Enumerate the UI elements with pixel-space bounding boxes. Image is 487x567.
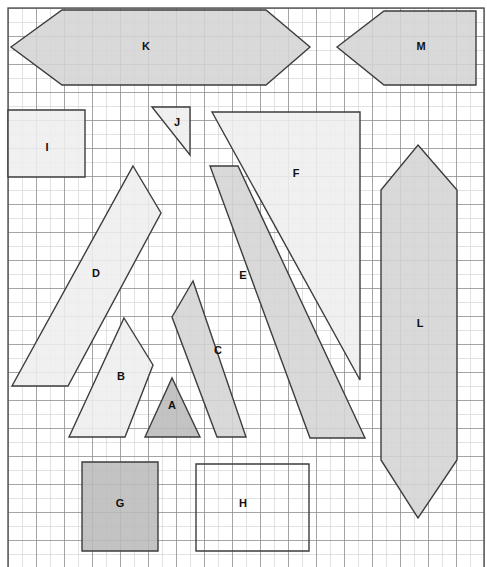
shape-h[interactable] xyxy=(196,464,309,551)
diagram-page: ABCDEFGHIJKLM xyxy=(0,0,487,567)
shape-k[interactable] xyxy=(11,10,310,85)
shape-g[interactable] xyxy=(82,462,158,551)
shapes-canvas: ABCDEFGHIJKLM xyxy=(0,0,487,567)
grid-board: ABCDEFGHIJKLM xyxy=(0,0,487,567)
shape-i[interactable] xyxy=(8,110,85,177)
shape-l[interactable] xyxy=(381,145,457,518)
